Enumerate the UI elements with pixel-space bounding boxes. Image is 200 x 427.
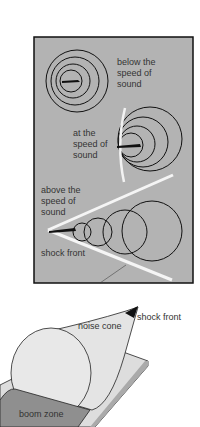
- sonic-boom-diagram: below the speed of sound at the speed of…: [0, 0, 200, 427]
- label-above-line2: speed of: [41, 196, 76, 206]
- speed-comparison-panel: below the speed of sound at the speed of…: [34, 37, 193, 283]
- noise-cone-illustration: noise cone shock front boom zone: [0, 306, 182, 427]
- label-at-line2: speed of: [73, 139, 108, 149]
- label-below-line1: below the: [117, 57, 156, 67]
- label-above-line1: above the: [41, 185, 81, 195]
- label-boom-zone: boom zone: [19, 409, 64, 419]
- label-at-line1: at the: [73, 128, 96, 138]
- label-noise-cone: noise cone: [78, 321, 122, 331]
- label-below-line3: sound: [117, 79, 142, 89]
- label-cone-shock-front: shock front: [137, 312, 182, 322]
- label-shock-front: shock front: [41, 248, 86, 258]
- label-above-line3: sound: [41, 207, 66, 217]
- label-below-line2: speed of: [117, 68, 152, 78]
- label-at-line3: sound: [73, 150, 98, 160]
